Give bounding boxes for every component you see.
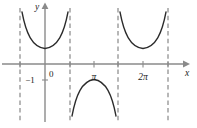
curve-branch-middle-inverted [72, 80, 116, 117]
y-axis [42, 3, 49, 123]
x-pi-label: π [92, 72, 97, 82]
x-axis-label: x [184, 68, 190, 78]
x-two-pi-label: 2π [138, 72, 148, 82]
y-axis-arrow-icon [42, 3, 49, 10]
function-graph-figure: y x 0 −1 π 2π [0, 0, 197, 128]
graph-canvas: y x 0 −1 π 2π [0, 0, 197, 128]
x-axis-arrow-icon [183, 60, 190, 67]
origin-label: 0 [49, 69, 54, 79]
curve-branch-right-u [120, 12, 166, 49]
y-neg-one-label: −1 [25, 75, 35, 85]
x-axis [2, 60, 190, 67]
y-axis-label: y [34, 2, 40, 12]
